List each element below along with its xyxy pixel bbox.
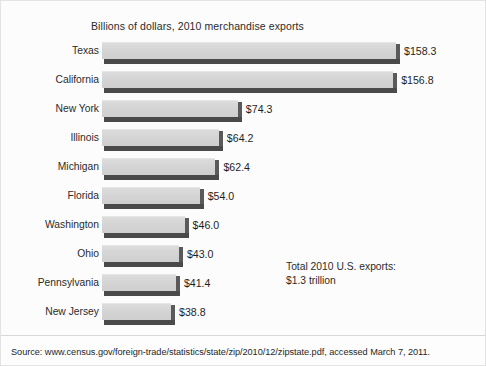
bar [102, 187, 204, 209]
bar-bottom-shadow [104, 262, 183, 267]
bar [102, 129, 223, 151]
bar-right-shadow [219, 131, 223, 146]
bar-face [102, 71, 393, 88]
bar-bottom-shadow [104, 291, 180, 296]
bar-row: Michigan$62.4 [1, 158, 485, 180]
bar-right-shadow [215, 160, 219, 175]
bar-row: Ohio$43.0 [1, 245, 485, 267]
total-exports-annotation: Total 2010 U.S. exports: $1.3 trillion [286, 260, 396, 288]
chart-title: Billions of dollars, 2010 merchandise ex… [91, 20, 304, 32]
source-citation: Source: www.census.gov/foreign-trade/sta… [11, 347, 430, 357]
bar-value-label: $41.4 [184, 277, 211, 289]
bar-row: Washington$46.0 [1, 216, 485, 238]
bar-face [102, 129, 219, 146]
bar [102, 303, 175, 325]
bar-bottom-shadow [104, 320, 175, 325]
bar-right-shadow [396, 44, 400, 59]
bar-bottom-shadow [104, 204, 204, 209]
bar-right-shadow [171, 305, 175, 320]
bar-category-label: New York [1, 103, 99, 114]
bar-value-label: $54.0 [208, 190, 235, 202]
bar-right-shadow [179, 247, 183, 262]
bar-row: Pennsylvania$41.4 [1, 274, 485, 296]
bar-right-shadow [185, 218, 189, 233]
exports-bar-chart-figure: Billions of dollars, 2010 merchandise ex… [0, 0, 486, 366]
bar [102, 274, 180, 296]
bar-value-label: $64.2 [227, 132, 254, 144]
bar-right-shadow [176, 276, 180, 291]
bar-value-label: $158.3 [404, 45, 436, 57]
bar-right-shadow [393, 73, 397, 88]
bar-row: Florida$54.0 [1, 187, 485, 209]
bar-category-label: California [1, 74, 99, 85]
bar-row: New Jersey$38.8 [1, 303, 485, 325]
bar-value-label: $156.8 [401, 74, 433, 86]
bar-face [102, 303, 171, 320]
bar-bottom-shadow [104, 117, 242, 122]
bar-bottom-shadow [104, 88, 397, 93]
bar-value-label: $62.4 [223, 161, 250, 173]
bar-face [102, 216, 185, 233]
bar-row: Illinois$64.2 [1, 129, 485, 151]
bar-row: Texas$158.3 [1, 42, 485, 64]
bar-category-label: Illinois [1, 132, 99, 143]
bar [102, 216, 189, 238]
bar-face [102, 245, 179, 262]
bar-face [102, 274, 176, 291]
chart-panel: Billions of dollars, 2010 merchandise ex… [1, 1, 485, 335]
bar-right-shadow [200, 189, 204, 204]
annotation-line-2: $1.3 trillion [286, 274, 396, 288]
bar [102, 100, 242, 122]
bar-category-label: Florida [1, 190, 99, 201]
bar-value-label: $46.0 [193, 219, 220, 231]
source-divider [1, 335, 485, 336]
bar-category-label: Michigan [1, 161, 99, 172]
bar [102, 245, 183, 267]
bar-value-label: $74.3 [246, 103, 273, 115]
bar [102, 158, 219, 180]
bar [102, 71, 397, 93]
bar-category-label: New Jersey [1, 306, 99, 317]
bar-face [102, 187, 200, 204]
bar-value-label: $43.0 [187, 248, 214, 260]
bar-bottom-shadow [104, 233, 189, 238]
annotation-line-1: Total 2010 U.S. exports: [286, 260, 396, 274]
bar-face [102, 42, 396, 59]
bar-bottom-shadow [104, 175, 219, 180]
bar-row: California$156.8 [1, 71, 485, 93]
bars-area: Texas$158.3California$156.8New York$74.3… [1, 42, 485, 335]
bar-bottom-shadow [104, 59, 400, 64]
bar-category-label: Washington [1, 219, 99, 230]
bar-face [102, 158, 215, 175]
bar-category-label: Texas [1, 45, 99, 56]
bar-category-label: Ohio [1, 248, 99, 259]
bar-value-label: $38.8 [179, 306, 206, 318]
bar-face [102, 100, 238, 117]
bar-right-shadow [238, 102, 242, 117]
bar-row: New York$74.3 [1, 100, 485, 122]
bar-category-label: Pennsylvania [1, 277, 99, 288]
bar-bottom-shadow [104, 146, 223, 151]
bar [102, 42, 400, 64]
